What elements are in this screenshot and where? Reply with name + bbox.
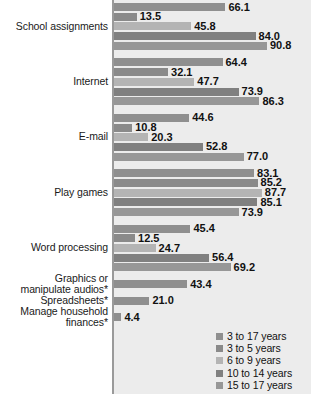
bar: [114, 189, 262, 197]
bar-value-label: 52.8: [206, 141, 227, 152]
bar-value-label: 24.7: [159, 243, 180, 254]
legend-swatch-icon: [216, 333, 223, 340]
bar: [114, 42, 267, 50]
bar: [114, 297, 149, 305]
bar: [114, 280, 187, 288]
legend-label: 15 to 17 years: [227, 380, 292, 391]
legend-label: 10 to 14 years: [227, 368, 292, 379]
legend-swatch-icon: [216, 345, 223, 352]
bar: [114, 263, 231, 271]
legend-swatch-icon: [216, 357, 223, 364]
bar-value-label: 77.0: [247, 151, 268, 162]
category-label: Internet: [0, 76, 108, 88]
bar: [114, 124, 132, 132]
category-axis-labels: School assignmentsInternetE-mailPlay gam…: [0, 0, 108, 394]
bar: [114, 198, 257, 206]
bar: [114, 169, 254, 177]
category-label-line: Play games: [0, 187, 108, 199]
bar: [114, 32, 256, 40]
bar-value-label: 73.9: [242, 207, 263, 218]
bar-value-label: 85.1: [260, 197, 281, 208]
legend-item: 15 to 17 years: [216, 380, 311, 392]
bar-value-label: 86.3: [262, 96, 283, 107]
bar-chart: School assignmentsInternetE-mailPlay gam…: [0, 0, 311, 408]
bar-value-label: 73.9: [242, 86, 263, 97]
legend-item: 3 to 5 years: [216, 342, 311, 354]
legend-label: 3 to 5 years: [227, 343, 281, 354]
bar: [114, 78, 194, 86]
bar: [114, 153, 244, 161]
bar: [114, 22, 191, 30]
bar: [114, 208, 239, 216]
category-label: E-mail: [0, 131, 108, 143]
bar-value-label: 90.8: [270, 40, 291, 51]
category-label-line: School assignments: [0, 21, 108, 33]
bar-value-label: 13.5: [140, 11, 161, 22]
category-label-line: Word processing: [0, 242, 108, 254]
bar: [114, 3, 225, 11]
bar: [114, 58, 223, 66]
bar-value-label: 45.8: [194, 21, 215, 32]
category-label: Play games: [0, 187, 108, 199]
bar-value-label: 47.7: [197, 76, 218, 87]
bar-value-label: 66.1: [228, 2, 249, 13]
legend-swatch-icon: [216, 382, 223, 389]
category-label-line: finances*: [0, 317, 108, 329]
legend-item: 6 to 9 years: [216, 355, 311, 367]
bar: [114, 97, 259, 105]
bar-value-label: 12.5: [138, 233, 159, 244]
bar-value-label: 44.6: [192, 112, 213, 123]
bar-value-label: 32.1: [171, 67, 192, 78]
legend-swatch-icon: [216, 370, 223, 377]
legend-label: 6 to 9 years: [227, 355, 281, 366]
bar: [114, 143, 203, 151]
legend-item: 10 to 14 years: [216, 367, 311, 379]
category-label-line: Internet: [0, 76, 108, 88]
bar: [114, 13, 137, 21]
bar: [114, 88, 239, 96]
bar: [114, 68, 168, 76]
legend-item: 3 to 17 years: [216, 330, 311, 342]
bar: [114, 254, 209, 262]
legend-label: 3 to 17 years: [227, 331, 286, 342]
chart-legend: 3 to 17 years3 to 5 years6 to 9 years10 …: [216, 330, 311, 392]
category-label: Manage householdfinances*: [0, 306, 108, 329]
category-label: Graphics ormanipulate audios*: [0, 273, 108, 296]
bar-value-label: 43.4: [190, 279, 211, 290]
bar-value-label: 21.0: [152, 295, 173, 306]
category-label-line: E-mail: [0, 131, 108, 143]
bar: [114, 244, 156, 252]
bar: [114, 234, 135, 242]
bar-value-label: 4.4: [124, 312, 139, 323]
bar: [114, 179, 258, 187]
bar-value-label: 56.4: [212, 252, 233, 263]
bar: [114, 313, 121, 321]
bar-value-label: 20.3: [151, 132, 172, 143]
bar: [114, 133, 148, 141]
bar-value-label: 69.2: [234, 262, 255, 273]
category-label: School assignments: [0, 21, 108, 33]
bar-value-label: 64.4: [226, 57, 247, 68]
category-label: Word processing: [0, 242, 108, 254]
bar-value-label: 45.4: [193, 223, 214, 234]
